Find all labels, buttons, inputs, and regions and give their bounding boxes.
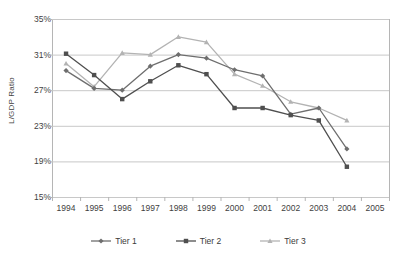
chart-container: L/GDP Ratio 35%31%27%23%19%15% 199419951… [0,0,396,257]
data-point-marker-square [176,63,180,67]
data-point-marker-square [148,79,152,83]
data-point-marker-square [288,113,292,117]
data-point-marker-square [260,106,264,110]
chart-legend: Tier 1Tier 2Tier 3 [0,232,396,250]
data-point-marker-square [232,106,236,110]
data-point-marker-diamond [99,238,104,243]
data-point-marker-square [317,118,321,122]
x-axis-tick-label: 2001 [253,203,272,213]
x-axis-tick-label: 2004 [337,203,356,213]
data-point-marker-square [184,239,188,243]
legend-marker-diamond-icon [90,236,112,246]
data-point-marker-square [345,165,349,169]
x-axis-tick-label: 1999 [197,203,216,213]
legend-label: Tier 3 [284,236,305,246]
x-axis-tick-labels: 1994199519961997199819992000200120022003… [0,203,396,217]
legend-item-tier-1[interactable]: Tier 1 [90,236,136,246]
x-axis-tick-label: 1994 [57,203,76,213]
legend-marker-triangle-icon [259,236,281,246]
x-axis-tick-label: 2003 [309,203,328,213]
x-axis-tick-label: 1998 [169,203,188,213]
x-axis-tick-label: 2000 [225,203,244,213]
legend-label: Tier 2 [200,236,221,246]
x-axis-tick-label: 2005 [365,203,384,213]
x-axis-tick-label: 1996 [113,203,132,213]
data-point-marker-square [64,52,68,56]
data-point-marker-square [92,73,96,77]
legend-item-tier-2[interactable]: Tier 2 [175,236,221,246]
x-axis-tick-label: 2002 [281,203,300,213]
legend-item-tier-3[interactable]: Tier 3 [259,236,305,246]
data-point-marker-square [120,97,124,101]
x-axis-tick-label: 1997 [141,203,160,213]
legend-label: Tier 1 [115,236,136,246]
data-point-marker-square [204,72,208,76]
legend-marker-square-icon [175,236,197,246]
plot-area [0,0,396,257]
x-axis-tick-label: 1995 [85,203,104,213]
plot-frame [53,20,390,198]
